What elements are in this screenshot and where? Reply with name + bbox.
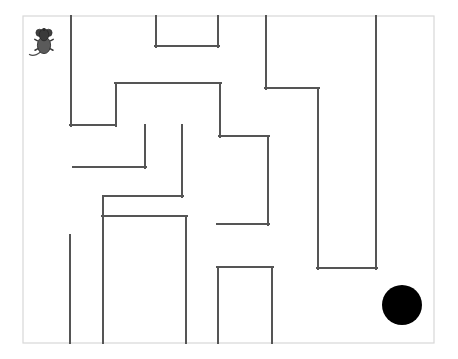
mouse-snout-icon: [43, 28, 46, 31]
goal-hole-circle[interactable]: [382, 285, 422, 325]
goal-hole[interactable]: [382, 285, 422, 325]
maze-canvas: [0, 0, 458, 359]
maze-scene: [0, 0, 458, 359]
